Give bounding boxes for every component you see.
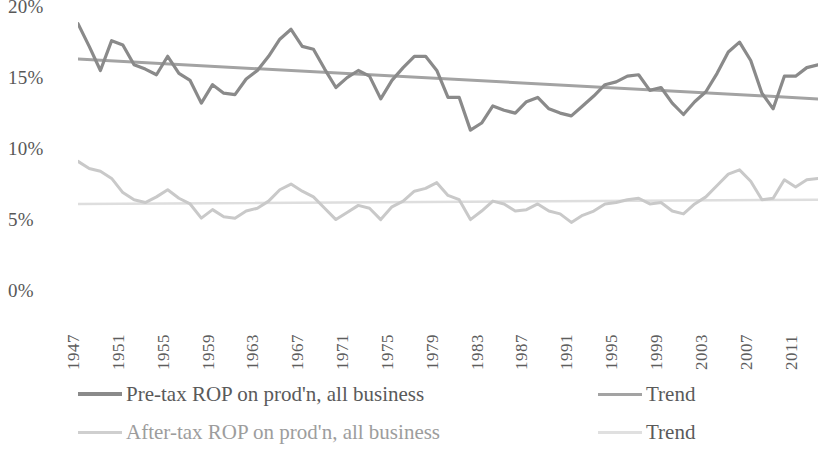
legend-label: Pre-tax ROP on prod'n, all business	[126, 384, 424, 405]
y-axis-tick-label: 20%	[8, 0, 74, 18]
legend-line-swatch	[598, 431, 642, 434]
legend-label: Trend	[646, 422, 695, 443]
x-axis-tick-label: 2007	[737, 334, 757, 370]
legend-entry[interactable]: Trend	[598, 414, 695, 450]
chart-legend: Pre-tax ROP on prod'n, all businessTrend…	[0, 376, 820, 452]
legend-line-swatch	[78, 392, 122, 396]
legend-label: After-tax ROP on prod'n, all business	[126, 422, 440, 443]
x-axis-tick-label: 1971	[333, 334, 353, 370]
x-axis-tick-label: 1983	[468, 334, 488, 370]
x-axis-tick-label: 1991	[557, 334, 577, 370]
chart-plot-svg	[78, 8, 818, 292]
x-axis-tick-label: 1975	[378, 334, 398, 370]
y-axis-tick-label: 15%	[8, 67, 74, 89]
chart-container: 0%5%10%15%20% 19471951195519591963196719…	[0, 0, 820, 452]
legend-entry[interactable]: After-tax ROP on prod'n, all business	[78, 414, 440, 450]
y-axis-tick-label: 0%	[8, 280, 74, 302]
x-axis-tick-label: 1951	[109, 334, 129, 370]
x-axis-tick-label: 1959	[199, 334, 219, 370]
legend-entry[interactable]: Pre-tax ROP on prod'n, all business	[78, 376, 424, 412]
x-axis-tick-label: 2003	[692, 334, 712, 370]
y-axis-tick-label: 5%	[8, 209, 74, 231]
plot-area	[78, 8, 818, 292]
legend-line-swatch	[598, 393, 642, 396]
legend-label: Trend	[646, 384, 695, 405]
x-axis-tick-label: 1947	[64, 334, 84, 370]
x-axis-tick-label: 1979	[423, 334, 443, 370]
x-axis-tick-label: 1995	[602, 334, 622, 370]
x-axis: 1947195119551959196319671971197519791983…	[78, 292, 818, 372]
x-axis-tick-label: 1963	[243, 334, 263, 370]
x-axis-tick-label: 1967	[288, 334, 308, 370]
x-axis-tick-label: 1955	[154, 334, 174, 370]
series-line-after-tax-rop	[78, 161, 818, 222]
x-axis-tick-label: 1987	[512, 334, 532, 370]
y-axis: 0%5%10%15%20%	[4, 0, 74, 300]
series-line-pre-tax-rop	[78, 24, 818, 131]
legend-line-swatch	[78, 431, 122, 434]
y-axis-tick-label: 10%	[8, 138, 74, 160]
x-axis-tick-label: 2011	[782, 335, 802, 370]
x-axis-tick-label: 1999	[647, 334, 667, 370]
legend-entry[interactable]: Trend	[598, 376, 695, 412]
